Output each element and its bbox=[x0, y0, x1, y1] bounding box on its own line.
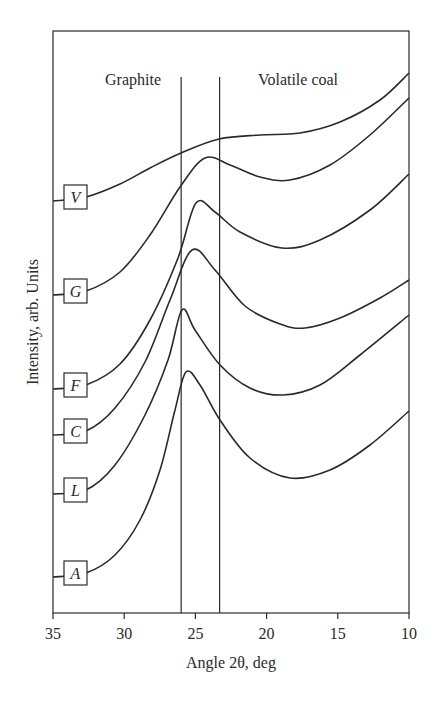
x-tick-label: 20 bbox=[259, 625, 275, 642]
curves bbox=[53, 73, 409, 577]
curve-l bbox=[53, 309, 409, 494]
x-tick-label: 10 bbox=[401, 625, 417, 642]
annotation-graphite: Graphite bbox=[105, 71, 161, 89]
curve-label-g: G bbox=[70, 283, 82, 300]
curve-c bbox=[53, 249, 409, 435]
curve-g bbox=[53, 98, 409, 295]
x-tick-label: 15 bbox=[330, 625, 346, 642]
y-axis-label: Intensity, arb. Units bbox=[24, 259, 42, 385]
curve-label-f: F bbox=[70, 377, 81, 394]
curve-label-l: L bbox=[70, 482, 80, 499]
x-axis-ticks: 353025201510 bbox=[45, 613, 417, 642]
x-axis-label: Angle 2θ, deg bbox=[186, 654, 276, 672]
curve-label-a: A bbox=[70, 565, 81, 582]
x-tick-label: 35 bbox=[45, 625, 61, 642]
x-tick-label: 30 bbox=[116, 625, 132, 642]
annotation-volatile-coal: Volatile coal bbox=[258, 71, 339, 88]
x-tick-label: 25 bbox=[187, 625, 203, 642]
curve-label-c: C bbox=[70, 423, 81, 440]
plot-frame bbox=[53, 31, 409, 613]
curve-labels: VGFCLA bbox=[64, 185, 87, 585]
xrd-chart: 353025201510 VGFCLA Graphite Volatile co… bbox=[0, 0, 436, 707]
curve-v bbox=[53, 73, 409, 201]
